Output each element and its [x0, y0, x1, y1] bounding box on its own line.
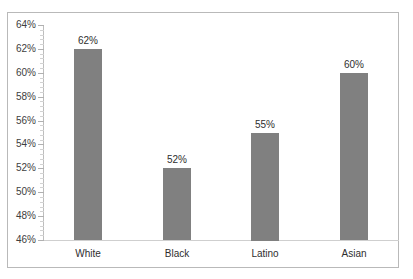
x-axis-category-label: Black: [142, 248, 212, 259]
bar-value-label: 52%: [152, 154, 202, 165]
bar: [74, 49, 102, 240]
x-axis-category-label: Latino: [230, 248, 300, 259]
bar: [163, 168, 191, 240]
bar-chart-figure: 46%48%50%52%54%56%58%60%62%64% 62%White5…: [0, 0, 413, 279]
x-axis-category-label: White: [53, 248, 123, 259]
bar-value-label: 62%: [63, 35, 113, 46]
bar-value-label: 60%: [329, 59, 379, 70]
bar-value-label: 55%: [240, 119, 290, 130]
bar: [340, 73, 368, 240]
bar: [251, 133, 279, 241]
x-axis-category-label: Asian: [319, 248, 389, 259]
bars-layer: 62%White52%Black55%Latino60%Asian: [0, 0, 413, 279]
